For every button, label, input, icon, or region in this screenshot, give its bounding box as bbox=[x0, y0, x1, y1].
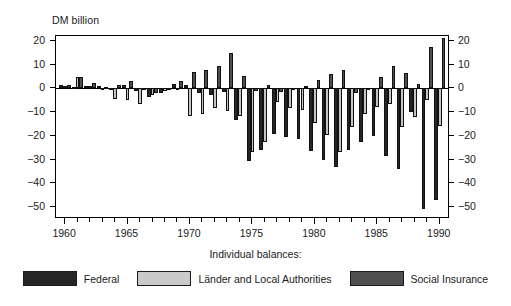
x-tick-mark-1986 bbox=[389, 218, 390, 222]
y-tick-mark-right--40 bbox=[449, 182, 454, 183]
y-tick-label-left--30: −30 bbox=[27, 154, 45, 165]
x-tick-mark-1961 bbox=[77, 218, 78, 222]
bar-social-1972 bbox=[217, 66, 221, 89]
x-tick-mark-1989 bbox=[426, 218, 427, 222]
bar-laender-1969 bbox=[176, 88, 180, 90]
bar-social-1961 bbox=[79, 77, 83, 88]
x-tick-label-1965: 1965 bbox=[115, 228, 138, 239]
y-tick-mark-left--20 bbox=[50, 135, 55, 136]
bar-laender-1964 bbox=[113, 88, 117, 99]
x-tick-mark-1984 bbox=[364, 218, 365, 222]
x-tick-label-1960: 1960 bbox=[52, 228, 75, 239]
x-tick-mark-1964 bbox=[114, 218, 115, 222]
bar-laender-1979 bbox=[301, 88, 305, 109]
bar-laender-1989 bbox=[425, 88, 429, 100]
bar-laender-1974 bbox=[238, 88, 242, 115]
x-tick-label-1970: 1970 bbox=[177, 228, 200, 239]
bar-social-1975 bbox=[254, 88, 258, 90]
bar-laender-1983 bbox=[350, 88, 354, 127]
bar-social-1960 bbox=[67, 85, 71, 89]
y-tick-mark-right-0 bbox=[449, 87, 454, 88]
y-tick-label-left--10: −10 bbox=[27, 106, 45, 117]
bar-laender-1973 bbox=[226, 88, 230, 111]
bar-social-1973 bbox=[229, 53, 233, 89]
y-tick-mark-left--30 bbox=[50, 159, 55, 160]
bar-laender-1965 bbox=[126, 88, 130, 99]
y-tick-label-left-20: 20 bbox=[33, 35, 45, 46]
bar-social-1963 bbox=[104, 87, 108, 89]
legend-item-social: Social Insurance bbox=[350, 271, 489, 286]
bar-social-1989 bbox=[429, 47, 433, 88]
bar-laender-1972 bbox=[213, 88, 217, 108]
bar-social-1979 bbox=[304, 86, 308, 88]
x-tick-mark-1971 bbox=[201, 218, 202, 222]
x-tick-label-1985: 1985 bbox=[365, 228, 388, 239]
y-tick-label-right-20: 20 bbox=[458, 35, 470, 46]
bar-laender-1975 bbox=[251, 88, 255, 152]
y-tick-label-right--10: −10 bbox=[458, 106, 476, 117]
x-tick-label-1975: 1975 bbox=[240, 228, 263, 239]
bar-laender-1978 bbox=[288, 88, 292, 108]
bar-social-1968 bbox=[167, 88, 171, 90]
legend-label-laender: Länder and Local Authorities bbox=[198, 273, 331, 285]
x-tick-mark-1977 bbox=[276, 218, 277, 222]
bar-social-1967 bbox=[154, 88, 158, 93]
bar-laender-1980 bbox=[313, 88, 317, 122]
bar-social-1984 bbox=[367, 88, 371, 90]
y-tick-mark-left--50 bbox=[50, 206, 55, 207]
bar-laender-1984 bbox=[363, 88, 367, 114]
y-tick-mark-right--30 bbox=[449, 159, 454, 160]
bar-social-1965 bbox=[129, 81, 133, 88]
legend-label-federal: Federal bbox=[84, 273, 120, 285]
y-tick-label-left--40: −40 bbox=[27, 177, 45, 188]
y-tick-label-right--30: −30 bbox=[458, 154, 476, 165]
bar-social-1970 bbox=[192, 72, 196, 89]
x-tick-mark-1974 bbox=[239, 218, 240, 222]
x-tick-mark-1970 bbox=[189, 218, 190, 224]
bar-social-1978 bbox=[292, 88, 296, 90]
x-tick-mark-1967 bbox=[152, 218, 153, 222]
y-tick-mark-right--50 bbox=[449, 206, 454, 207]
x-tick-mark-1966 bbox=[139, 218, 140, 222]
x-tick-mark-1978 bbox=[289, 218, 290, 222]
bar-social-1976 bbox=[267, 85, 271, 88]
bar-social-1981 bbox=[329, 74, 333, 88]
bar-social-1969 bbox=[179, 81, 183, 88]
bar-social-1977 bbox=[279, 88, 283, 92]
bar-social-1974 bbox=[242, 76, 246, 89]
bar-laender-1986 bbox=[388, 88, 392, 104]
bar-laender-1988 bbox=[413, 88, 417, 117]
legend-swatch-federal bbox=[23, 271, 77, 286]
bar-social-1964 bbox=[117, 85, 121, 89]
legend-swatch-laender bbox=[137, 271, 191, 286]
bar-social-1966 bbox=[142, 88, 146, 90]
x-tick-mark-1973 bbox=[226, 218, 227, 222]
bar-laender-1987 bbox=[400, 88, 404, 127]
bar-laender-1971 bbox=[201, 88, 205, 114]
y-tick-mark-left-0 bbox=[50, 87, 55, 88]
chart-figure: DM billion 20100−10−20−30−40−50 20100−10… bbox=[0, 0, 511, 306]
bar-social-1980 bbox=[317, 80, 321, 88]
y-tick-mark-left--10 bbox=[50, 111, 55, 112]
bar-social-1985 bbox=[379, 77, 383, 88]
bar-laender-1990 bbox=[438, 88, 442, 126]
y-tick-label-right--20: −20 bbox=[458, 130, 476, 141]
legend-label-social: Social Insurance bbox=[411, 273, 489, 285]
y-tick-label-left--20: −20 bbox=[27, 130, 45, 141]
y-tick-mark-left-10 bbox=[50, 64, 55, 65]
bar-social-1988 bbox=[417, 84, 421, 88]
y-tick-label-left-10: 10 bbox=[33, 59, 45, 70]
y-tick-label-left--50: −50 bbox=[27, 201, 45, 212]
x-tick-mark-1990 bbox=[439, 218, 440, 224]
x-tick-mark-1981 bbox=[326, 218, 327, 222]
legend-caption: Individual balances: bbox=[0, 248, 511, 260]
x-tick-mark-1976 bbox=[264, 218, 265, 222]
y-tick-mark-right--20 bbox=[449, 135, 454, 136]
bar-social-1983 bbox=[354, 88, 358, 93]
y-tick-mark-right--10 bbox=[449, 111, 454, 112]
bar-laender-1981 bbox=[325, 88, 329, 134]
x-tick-mark-1988 bbox=[414, 218, 415, 222]
x-tick-mark-1972 bbox=[214, 218, 215, 222]
x-tick-mark-1969 bbox=[176, 218, 177, 222]
x-tick-mark-1980 bbox=[314, 218, 315, 224]
